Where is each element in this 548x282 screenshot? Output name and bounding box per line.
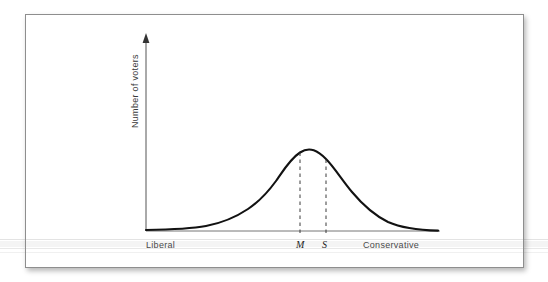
voter-distribution-chart [0, 0, 548, 282]
distribution-curve [146, 150, 438, 231]
y-axis-arrow-icon [143, 33, 150, 43]
status-quo-marker-label: S [322, 239, 327, 250]
page-canvas: Number of voters Liberal Conservative M … [0, 0, 548, 282]
x-axis-label-liberal: Liberal [146, 240, 175, 250]
median-marker-label: M [296, 239, 304, 250]
x-axis-label-conservative: Conservative [363, 240, 419, 250]
y-axis [143, 33, 150, 231]
y-axis-label: Number of voters [130, 8, 140, 128]
